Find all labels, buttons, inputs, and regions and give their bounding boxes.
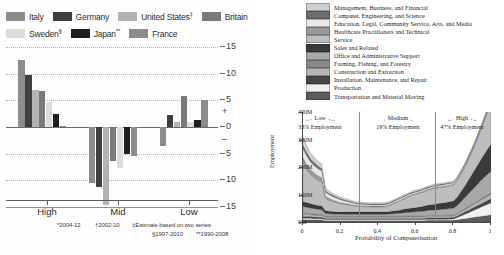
right-xtick-0: 0 [301, 228, 304, 234]
bar-low-italy [160, 127, 166, 146]
legend-label-france: France [152, 29, 177, 39]
right-legend-label-3: Healthcare Practitioners and Technical [334, 28, 430, 35]
ytick-plus: + [222, 106, 227, 116]
right-chart-x-axis-label: Probability of Computerisation [302, 234, 490, 241]
ytick-10: 10 [220, 68, 236, 78]
bar-high-italy [18, 60, 24, 127]
bar-mid-japan [124, 127, 130, 154]
right-ytick-mark-100M [299, 195, 302, 196]
ytick-minus10: 10 [220, 174, 236, 184]
right-legend-item-6: Office and Administrative Support [306, 52, 472, 60]
bar-high-britain [39, 91, 45, 127]
right-legend-item-3: Healthcare Practitioners and Technical [306, 27, 472, 35]
footnote-1: *2004-12 [57, 222, 81, 228]
annotation-medium-sub: 19% Employment [376, 124, 420, 130]
right-legend-label-5: Sales and Related [334, 44, 378, 51]
right-chart-figure: Employment Probability of Computerisatio… [264, 108, 502, 255]
legend-swatch-united-states [118, 12, 137, 21]
left-chart-x-axis [6, 200, 218, 201]
bar-mid-france [131, 127, 137, 156]
legend-swatch-germany [53, 12, 72, 21]
right-legend-swatch-8 [306, 68, 330, 76]
right-legend-item-8: Construction and Extraction [306, 68, 472, 76]
legend-item-japan: Japan** [71, 28, 120, 39]
bar-mid-italy [89, 127, 95, 183]
right-xtick-mark-1 [490, 222, 491, 225]
legend-note-japan: ** [116, 28, 120, 34]
legend-item-sweden: Sweden§ [6, 28, 62, 39]
legend-note-united-states: ‡ [190, 11, 193, 17]
legend-swatch-france [129, 29, 148, 38]
right-legend-label-7: Farming, Fishing, and Forestry [334, 60, 411, 67]
right-legend-label-10: Production [334, 84, 361, 91]
ytick-minus: – [222, 134, 227, 144]
right-legend-swatch-10 [306, 84, 330, 92]
right-xtick-0.6: 0.6 [411, 228, 419, 234]
right-legend-label-8: Construction and Extraction [334, 68, 404, 75]
bar-mid-britain [110, 127, 116, 161]
right-xtick-mark-0.8 [452, 222, 453, 225]
ytick-minus5: 5 [220, 148, 231, 158]
right-legend-label-0: Management, Business, and Financial [334, 4, 428, 11]
ytick-15: 15 [220, 41, 236, 51]
right-legend-swatch-1 [306, 11, 330, 19]
right-legend-item-9: Installation, Maintenance, and Repair [306, 76, 472, 84]
right-legend-swatch-5 [306, 44, 330, 52]
legend-label-united-states: United States‡ [141, 11, 193, 22]
footnote-4: §1997-2010 [152, 231, 183, 237]
right-chart-legend: Management, Business, and FinancialCompu… [306, 3, 472, 100]
left-chart-bars [6, 47, 218, 207]
bar-low-sweden [187, 122, 193, 127]
right-xtick-0.4: 0.4 [373, 228, 381, 234]
right-legend-label-2: Education, Legal, Community Service, Art… [334, 20, 472, 27]
right-legend-item-5: Sales and Related [306, 43, 472, 51]
bar-high-japan [53, 114, 59, 127]
bar-low-france [201, 100, 207, 127]
right-legend-label-4: Service [334, 36, 353, 43]
right-xtick-mark-0 [302, 222, 303, 225]
bar-low-japan [194, 120, 200, 127]
figure-page: Italy Germany United States‡ Britain [0, 0, 504, 255]
right-legend-item-2: Education, Legal, Community Service, Art… [306, 19, 472, 27]
legend-row-2: Sweden§ Japan** France [6, 25, 246, 42]
annotation-high: ←————→ 47% Employment [424, 116, 500, 131]
right-ytick-mark-400M [299, 112, 302, 113]
right-legend-label-11: Transportation and Material Moving [334, 93, 424, 100]
right-legend-swatch-4 [306, 35, 330, 43]
legend-item-germany: Germany [53, 12, 110, 22]
annotation-high-sub: 47% Employment [440, 124, 484, 130]
legend-item-france: France [129, 29, 177, 39]
annotation-high-arrow: ←————→ [424, 116, 500, 124]
annotation-low: ←————→ 33% Employment [282, 116, 358, 131]
right-legend-swatch-6 [306, 52, 330, 60]
right-ytick-mark-300M [299, 140, 302, 141]
right-legend-item-0: Management, Business, and Financial [306, 3, 472, 11]
legend-note-sweden: § [59, 28, 62, 34]
footnote-2: †2002-10 [95, 222, 120, 228]
legend-label-japan: Japan** [94, 28, 120, 39]
legend-row-1: Italy Germany United States‡ Britain [6, 8, 246, 25]
right-legend-swatch-0 [306, 3, 330, 11]
right-xtick-0.2: 0.2 [336, 228, 344, 234]
ytick-minus15: 15 [220, 201, 236, 211]
ytick-0: 0 [220, 121, 231, 131]
group-label-high: High [22, 206, 72, 217]
right-legend-swatch-2 [306, 19, 330, 27]
group-label-mid: Mid [93, 206, 143, 217]
xtick-low [189, 200, 190, 205]
right-legend-label-6: Office and Administrative Support [334, 52, 420, 59]
xtick-mid [118, 200, 119, 205]
legend-swatch-italy [6, 12, 25, 21]
legend-swatch-britain [202, 12, 221, 21]
right-legend-item-4: Service [306, 35, 472, 43]
right-legend-swatch-7 [306, 60, 330, 68]
legend-item-italy: Italy [6, 12, 44, 22]
legend-label-italy: Italy [29, 12, 44, 22]
right-xtick-1: 1 [489, 228, 492, 234]
right-chart-y-axis-label: Employment [268, 135, 275, 168]
footnote-3: ‡Estimate based on two series [132, 222, 211, 228]
annotation-low-arrow: ←————→ [282, 116, 358, 124]
left-chart-plot-area [6, 47, 218, 207]
bar-high-united-states [32, 90, 38, 127]
left-chart-panel: Italy Germany United States‡ Britain [0, 0, 250, 255]
